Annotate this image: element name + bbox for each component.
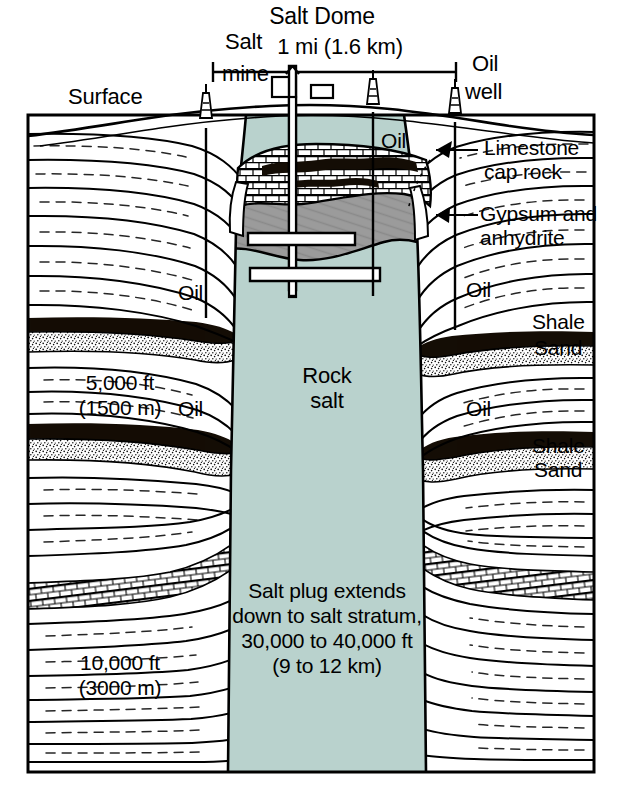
oil-label-right-upper: Oil [466,279,491,301]
oil-label-left-lower: Oil [178,398,203,420]
surface-label: Surface [68,85,142,108]
salt-mine-label-line1: Salt [225,30,262,53]
oil-label-left-upper: Oil [178,282,203,304]
oil-label-cap-rock: Oil [381,130,406,152]
depth-5000ft-line2: (1500 m) [55,397,185,419]
salt-plug-note-line3: 30,000 to 40,000 ft [218,630,436,652]
sand-label-lower: Sand [534,459,582,481]
limestone-cap-rock-label-line1: Limestone [484,137,579,159]
rock-salt-label-line1: Rock [277,364,377,387]
scale-label: 1 mi (1.6 km) [245,35,435,58]
rock-salt-label-line2: salt [277,389,377,412]
shale-label-lower: Shale [532,435,585,457]
gypsum-label-line1: Gypsum and [480,203,597,225]
salt-plug-note-line1: Salt plug extends [222,580,432,602]
oil-well-label-line1: Oil [472,52,498,75]
depth-5000ft-line1: 5,000 ft [60,372,180,394]
sand-label-upper: Sand [534,337,582,359]
salt-plug-note-line4: (9 to 12 km) [240,655,414,677]
shale-label-upper: Shale [532,311,585,333]
salt-dome-diagram: Salt Dome 1 mi (1.6 km) Salt mine Surfac… [0,0,622,789]
depth-10000ft-line2: (3000 m) [50,677,190,699]
title-salt-dome: Salt Dome [242,4,402,28]
limestone-cap-rock-label-line2: cap rock [484,161,562,183]
salt-plug-note-line2: down to salt stratum, [216,605,438,627]
gypsum-label-line2: anhydrite [480,227,565,249]
oil-label-right-lower: Oil [466,398,491,420]
salt-mine-label-line2: mine [222,62,269,85]
depth-10000ft-line1: 10,000 ft [50,652,190,674]
oil-well-label-line2: well [465,80,502,103]
